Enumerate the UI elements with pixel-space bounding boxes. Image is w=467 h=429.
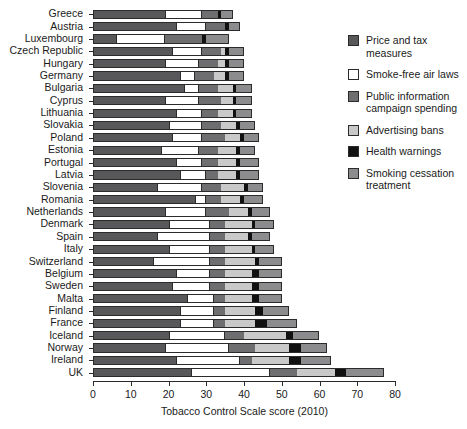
bar-row [93, 22, 395, 31]
stacked-bar-luxembourg [93, 34, 229, 43]
bar-segment [93, 343, 165, 352]
bar-segment [93, 282, 172, 291]
bar-segment [270, 368, 296, 377]
y-axis-label-spain: Spain [56, 231, 83, 242]
bar-row [93, 257, 395, 266]
stacked-bar-bulgaria [93, 84, 252, 93]
bar-segment [206, 207, 229, 216]
bar-segment [153, 257, 210, 266]
bar-row [93, 356, 395, 365]
y-axis-label-slovenia: Slovenia [43, 181, 83, 192]
bar-segment [93, 232, 157, 241]
bar-row [93, 331, 395, 340]
legend-item[interactable]: Price and tax measures [348, 34, 466, 59]
bar-segment [221, 183, 244, 192]
y-axis-category-labels: GreeceAustriaLuxembourgCzech RepublicHun… [0, 8, 88, 379]
bar-segment [229, 343, 255, 352]
stacked-bar-slovakia [93, 121, 255, 130]
bar-segment [172, 133, 202, 142]
bar-segment [229, 22, 240, 31]
bar-row [93, 368, 395, 377]
y-axis-label-iceland: Iceland [49, 330, 83, 341]
legend-item[interactable]: Health warnings [348, 145, 466, 158]
legend-item[interactable]: Smoke-free air laws [348, 68, 466, 81]
bar-segment [214, 71, 225, 80]
bar-segment [214, 319, 225, 328]
bar-segment [210, 220, 225, 229]
legend-swatch-icon [348, 35, 359, 46]
bar-segment [335, 368, 346, 377]
bar-segment [225, 319, 255, 328]
bar-segment [297, 368, 335, 377]
y-axis-label-sweden: Sweden [45, 280, 83, 291]
bar-row [93, 10, 395, 19]
y-axis-label-italy: Italy [64, 243, 83, 254]
bar-segment [252, 269, 260, 278]
bar-segment [93, 47, 172, 56]
stacked-bar-czech-republic [93, 47, 244, 56]
bar-segment [93, 71, 180, 80]
legend-swatch-icon [348, 168, 359, 179]
bar-segment [252, 356, 290, 365]
bar-row [93, 207, 395, 216]
bar-segment [172, 47, 202, 56]
bar-segment [244, 331, 286, 340]
bar-segment [93, 257, 153, 266]
bar-segment [255, 245, 274, 254]
bar-segment [93, 195, 195, 204]
bar-segment [259, 257, 282, 266]
y-axis-label-france: France [50, 317, 83, 328]
y-axis-label-switzerland: Switzerland [29, 256, 83, 267]
bar-segment [240, 121, 255, 130]
bar-segment [255, 319, 266, 328]
bar-segment [214, 294, 225, 303]
bar-segment [240, 158, 259, 167]
bar-segment [240, 146, 255, 155]
y-axis-label-cyprus: Cyprus [50, 95, 83, 106]
bar-segment [157, 183, 202, 192]
stacked-bar-lithuania [93, 109, 252, 118]
bar-segment [93, 306, 180, 315]
legend-item[interactable]: Public information campaign spending [348, 90, 466, 115]
bar-segment [248, 183, 263, 192]
bar-segment [199, 146, 218, 155]
stacked-bar-ireland [93, 356, 331, 365]
bar-segment [218, 109, 233, 118]
bar-segment [210, 282, 225, 291]
bar-segment [289, 356, 300, 365]
x-axis-tick-label: 20 [163, 388, 175, 400]
x-axis-tick-label: 30 [200, 388, 212, 400]
bar-segment [202, 183, 221, 192]
y-axis-label-austria: Austria [50, 21, 83, 32]
bar-segment [221, 96, 232, 105]
stacked-bar-malta [93, 294, 282, 303]
bar-segment [244, 133, 259, 142]
bar-segment [93, 356, 176, 365]
bar-segment [93, 22, 176, 31]
bar-row [93, 282, 395, 291]
x-axis-tick-label: 0 [90, 388, 96, 400]
bar-segment [165, 207, 207, 216]
bar-segment [195, 71, 214, 80]
bar-segment [93, 331, 169, 340]
bar-segment [195, 195, 206, 204]
legend-item[interactable]: Smoking cessation treatment [348, 167, 466, 192]
bar-segment [176, 22, 206, 31]
legend-swatch-icon [348, 125, 359, 136]
bar-segment [180, 170, 206, 179]
stacked-bar-iceland [93, 331, 319, 340]
x-axis-tick [131, 381, 132, 386]
stacked-bar-netherlands [93, 207, 270, 216]
y-axis-label-belgium: Belgium [45, 268, 83, 279]
legend-item[interactable]: Advertising bans [348, 124, 466, 137]
y-axis-label-ireland: Ireland [51, 354, 83, 365]
bar-row [93, 319, 395, 328]
bar-segment [184, 84, 199, 93]
bar-segment [244, 195, 263, 204]
bar-segment [225, 220, 251, 229]
y-axis-label-portugal: Portugal [44, 157, 83, 168]
stacked-bar-uk [93, 368, 384, 377]
bar-row [93, 306, 395, 315]
bar-segment [169, 331, 226, 340]
bar-segment [165, 96, 199, 105]
